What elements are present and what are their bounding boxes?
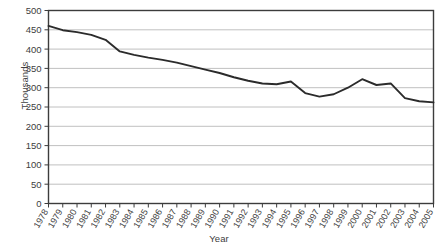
y-tick-label: 400 (26, 44, 42, 55)
y-tick-label: 100 (26, 159, 42, 170)
data-series-line (49, 26, 434, 102)
y-tick-label: 250 (26, 101, 42, 112)
line-chart: Thousands 500450400350300250200150100500… (0, 0, 438, 250)
x-axis-ticks: 1978197919801981198219831984198519861987… (32, 204, 436, 230)
y-tick-label: 150 (26, 140, 42, 151)
y-tick-label: 50 (31, 179, 42, 190)
y-tick-label: 350 (26, 63, 42, 74)
y-axis-ticks: 500450400350300250200150100500 (26, 5, 49, 209)
y-tick-label: 200 (26, 121, 42, 132)
y-tick-label: 300 (26, 82, 42, 93)
chart-canvas: 500450400350300250200150100500 197819791… (0, 0, 438, 250)
x-tick-label: 2005 (417, 208, 436, 230)
y-tick-label: 450 (26, 24, 42, 35)
x-axis-title: Year (0, 233, 438, 244)
y-tick-label: 500 (26, 5, 42, 16)
grid-lines (49, 11, 434, 185)
